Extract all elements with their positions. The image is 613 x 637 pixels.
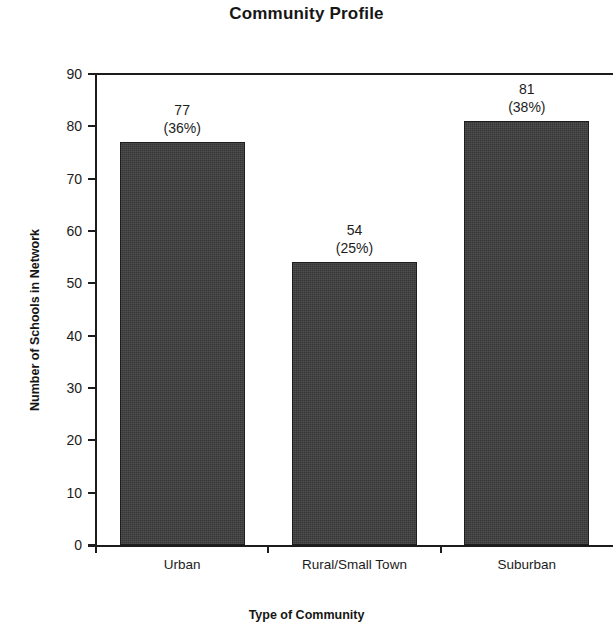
plot-area <box>96 74 613 545</box>
bar-value: 77 <box>122 102 242 120</box>
bar <box>464 121 589 545</box>
y-axis-tick-label: 60 <box>42 224 82 238</box>
y-axis-tick-label: 50 <box>42 276 82 290</box>
x-axis-category-label: Rural/Small Town <box>265 557 445 572</box>
y-axis-tick <box>88 178 96 180</box>
y-axis-tick <box>88 439 96 441</box>
y-axis-tick-label-wrap: 30 <box>42 381 82 395</box>
x-axis-category-label: Suburban <box>437 557 613 572</box>
y-axis-tick <box>88 335 96 337</box>
bar-percent: (25%) <box>295 240 415 258</box>
y-axis-tick-label-wrap: 70 <box>42 172 82 186</box>
y-axis-tick <box>88 230 96 232</box>
y-axis-tick-label: 40 <box>42 329 82 343</box>
y-axis-tick-label-wrap: 0 <box>42 538 82 552</box>
y-axis-tick-label-wrap: 90 <box>42 67 82 81</box>
y-axis-tick <box>88 73 96 75</box>
y-axis-tick <box>88 282 96 284</box>
bar-chart: Community Profile Number of Schools in N… <box>0 0 613 637</box>
bar-percent: (38%) <box>467 99 587 117</box>
x-axis-tick <box>95 545 97 553</box>
chart-title: Community Profile <box>0 4 613 24</box>
y-axis-tick-label: 80 <box>42 119 82 133</box>
y-axis-tick-label: 10 <box>42 486 82 500</box>
y-axis-tick-label: 70 <box>42 172 82 186</box>
x-axis-category-label: Urban <box>92 557 272 572</box>
y-axis-tick-label-wrap: 50 <box>42 276 82 290</box>
y-axis-tick <box>88 387 96 389</box>
y-axis-tick-label: 0 <box>42 538 82 552</box>
bar-value: 81 <box>467 81 587 99</box>
bar-value-label: 54(25%) <box>295 222 415 257</box>
bar-percent: (36%) <box>122 120 242 138</box>
bar-value-label: 77(36%) <box>122 102 242 137</box>
y-axis-tick-label-wrap: 10 <box>42 486 82 500</box>
x-axis-line <box>88 545 613 547</box>
y-axis-tick-label-wrap: 40 <box>42 329 82 343</box>
x-axis-title: Type of Community <box>0 608 613 622</box>
x-axis-tick <box>267 545 269 553</box>
y-axis-tick-label-wrap: 60 <box>42 224 82 238</box>
y-axis-tick-label: 90 <box>42 67 82 81</box>
y-axis-tick-label: 30 <box>42 381 82 395</box>
bar-value: 54 <box>295 222 415 240</box>
bar-value-label: 81(38%) <box>467 81 587 116</box>
y-axis-tick <box>88 492 96 494</box>
y-axis-tick-label-wrap: 80 <box>42 119 82 133</box>
bar <box>120 142 245 545</box>
y-axis-tick-label-wrap: 20 <box>42 433 82 447</box>
bar <box>292 262 417 545</box>
y-axis-title: Number of Schools in Network <box>28 180 42 460</box>
x-axis-tick <box>440 545 442 553</box>
y-axis-tick <box>88 125 96 127</box>
y-axis-tick-label: 20 <box>42 433 82 447</box>
